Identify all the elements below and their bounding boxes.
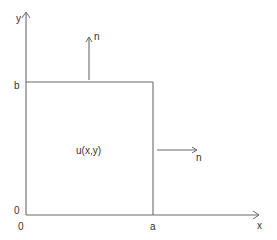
right-normal-label: n — [196, 152, 202, 163]
boundary-domain-diagram: y x b 0 0 a u(x,y) n n — [0, 0, 277, 240]
right-normal-vector — [157, 147, 197, 153]
y-axis — [22, 12, 30, 215]
y-axis-label: y — [16, 13, 21, 24]
x-axis — [26, 211, 259, 219]
function-label: u(x,y) — [76, 145, 101, 156]
origin-y-label: 0 — [14, 205, 20, 216]
top-normal-label: n — [94, 31, 100, 42]
width-label-a: a — [150, 221, 156, 232]
top-normal-vector — [86, 37, 92, 80]
height-label-b: b — [14, 80, 20, 91]
origin-x-label: 0 — [18, 221, 24, 232]
x-axis-label: x — [257, 220, 262, 231]
